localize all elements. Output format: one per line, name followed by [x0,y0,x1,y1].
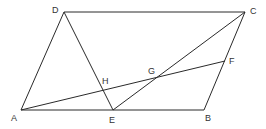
point-label-g: G [148,66,155,76]
labels-group: ABCDEFGH [11,5,257,125]
point-label-h: H [102,76,109,86]
segments-group [21,12,245,110]
point-label-c: C [250,6,257,16]
diagram-canvas: ABCDEFGH [0,0,266,129]
geometry-diagram: ABCDEFGH [0,0,266,129]
segment-da [21,12,64,110]
point-label-f: F [229,56,235,66]
point-label-a: A [11,113,17,123]
segment-ec [113,12,245,110]
segment-de [64,12,113,110]
point-label-b: B [205,113,211,123]
point-label-d: D [52,5,59,15]
point-label-e: E [109,115,115,125]
